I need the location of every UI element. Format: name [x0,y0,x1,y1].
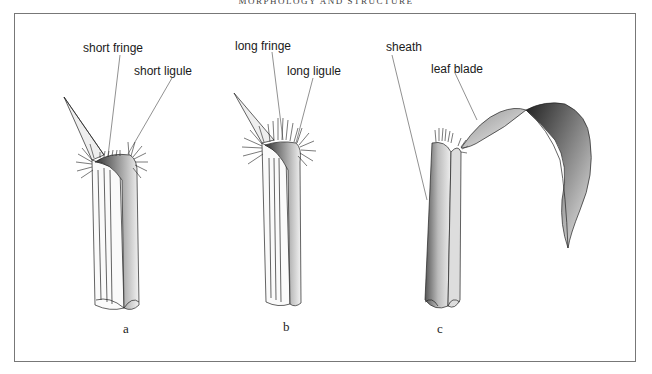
panel-b-illustration [234,52,316,306]
panel-caption-b: b [283,319,290,335]
panel-caption-c: c [437,321,443,337]
label-long-ligule: long ligule [287,64,341,78]
panel-a-illustration [64,55,172,309]
grass-leaf-illustrations [0,0,652,374]
label-short-fringe: short fringe [83,41,143,55]
label-long-fringe: long fringe [235,39,291,53]
panel-caption-a: a [123,321,129,337]
panel-c-illustration [392,55,591,308]
label-leaf-blade: leaf blade [431,62,483,76]
label-sheath: sheath [386,40,422,54]
label-short-ligule: short ligule [134,64,192,78]
